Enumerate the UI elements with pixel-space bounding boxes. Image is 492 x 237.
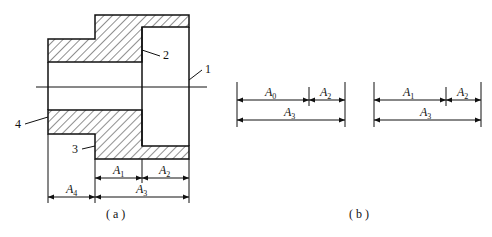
svg-text:A3: A3 (135, 182, 147, 198)
drawing-canvas: 2 1 3 4 A1 A2 A4 A3 ( a ) A0 A2 (0, 0, 492, 237)
svg-text:A0: A0 (264, 85, 276, 101)
hatched-bottom (48, 110, 189, 159)
svg-text:A1: A1 (112, 163, 124, 179)
caption-b: ( b ) (349, 207, 369, 221)
chain-left-labels: A0 A2 A3 (264, 85, 331, 121)
svg-text:A2: A2 (158, 163, 170, 179)
label-2: 2 (163, 48, 169, 62)
label-1: 1 (205, 62, 211, 76)
svg-text:A2: A2 (319, 85, 331, 101)
caption-a: ( a ) (106, 207, 125, 221)
part-section (36, 15, 207, 159)
svg-text:A2: A2 (456, 85, 468, 101)
technical-drawing: 2 1 3 4 A1 A2 A4 A3 ( a ) A0 A2 (0, 0, 492, 237)
svg-text:A4: A4 (65, 182, 77, 198)
dimension-labels-a: A1 A2 A4 A3 (65, 163, 170, 198)
chain-right-labels: A1 A2 A3 (402, 85, 468, 121)
svg-text:A3: A3 (419, 105, 431, 121)
label-4: 4 (15, 117, 21, 131)
svg-text:A1: A1 (402, 85, 414, 101)
svg-text:A3: A3 (283, 105, 295, 121)
label-3: 3 (72, 142, 78, 156)
